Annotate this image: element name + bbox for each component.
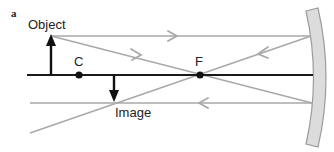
concave-mirror-ray-diagram: a Object C F Image	[0, 0, 334, 152]
ray-through-focus-incident	[51, 36, 312, 103]
image-arrowhead-icon	[109, 90, 119, 102]
light-rays	[30, 36, 312, 133]
center-label: C	[74, 54, 83, 69]
concave-mirror	[306, 8, 326, 147]
object-label: Object	[28, 17, 66, 32]
panel-label: a	[11, 7, 17, 19]
center-of-curvature-point	[75, 71, 82, 78]
ray-arrowheads	[131, 31, 268, 108]
object-arrow	[46, 34, 56, 75]
focal-point	[196, 71, 203, 78]
focus-label: F	[195, 54, 203, 69]
ray-reflected-through-focus	[30, 36, 311, 133]
image-label: Image	[115, 105, 151, 120]
image-arrow	[109, 75, 119, 102]
